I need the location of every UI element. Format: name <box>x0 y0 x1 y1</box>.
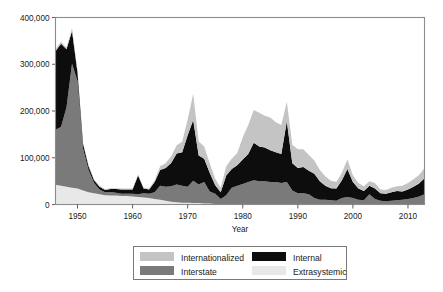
area-series-internal <box>56 31 425 201</box>
legend-swatch <box>252 252 286 261</box>
x-axis-tick-labels: 1950196019701980199020002010 <box>68 212 417 221</box>
y-tick-label: 400,000 <box>20 14 50 23</box>
y-tick-label: 0 <box>45 201 50 210</box>
y-tick-label: 300,000 <box>20 60 50 69</box>
legend-label: Interstate <box>181 267 217 277</box>
figure-container: 0100,000200,000300,000400,000 1950196019… <box>0 0 443 292</box>
x-axis-title: Year <box>232 225 249 234</box>
stacked-area-series <box>56 28 425 204</box>
chart-canvas: 0100,000200,000300,000400,000 1950196019… <box>0 0 443 292</box>
x-axis-tick-marks <box>78 205 408 209</box>
chart-legend: InternationalizedInternalInterstateExtra… <box>134 247 348 280</box>
x-tick-label: 1970 <box>179 212 198 221</box>
y-tick-label: 100,000 <box>20 154 50 163</box>
x-tick-label: 1960 <box>123 212 142 221</box>
legend-label: Internal <box>293 253 322 263</box>
x-tick-label: 2000 <box>344 212 363 221</box>
x-tick-label: 1950 <box>68 212 87 221</box>
y-tick-label: 200,000 <box>20 107 50 116</box>
legend-swatch <box>140 252 174 261</box>
legend-label: Internationalized <box>181 253 244 263</box>
legend-label: Extrasystemic <box>293 267 347 277</box>
legend-swatch <box>252 266 286 275</box>
x-tick-label: 1980 <box>234 212 253 221</box>
x-tick-label: 1990 <box>289 212 308 221</box>
x-tick-label: 2010 <box>399 212 418 221</box>
legend-swatch <box>140 266 174 275</box>
y-axis-tick-labels: 0100,000200,000300,000400,000 <box>20 14 50 210</box>
